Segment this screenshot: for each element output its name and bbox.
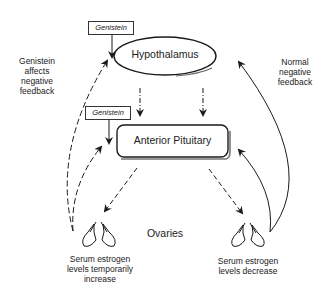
normal-feedback-annotation: Normal negative feedback xyxy=(270,57,320,87)
right-ovaries-icon xyxy=(232,223,265,246)
annotation-line: Normal xyxy=(270,57,320,67)
annotation-line: feedback xyxy=(270,77,320,87)
caption-line: increase xyxy=(62,274,138,284)
pit-to-right-ovary-arrow xyxy=(209,169,242,213)
right-ovary-caption: Serum estrogen levels decrease xyxy=(213,256,283,276)
right-ovary-to-hypothalamus-arrow xyxy=(239,62,289,232)
genistein-box-pituitary: Genistein xyxy=(85,106,131,120)
right-ovary-to-pituitary-arrow xyxy=(239,150,271,232)
left-ovary-to-pituitary-arrow xyxy=(73,147,101,231)
caption-line: Serum estrogen xyxy=(213,256,283,266)
left-ovary-to-hypothalamus-arrow xyxy=(67,61,107,231)
genistein-box-hypothalamus: Genistein xyxy=(88,21,134,35)
hypothalamus-label: Hypothalamus xyxy=(125,48,205,60)
pit-to-left-ovary-arrow xyxy=(105,168,137,211)
annotation-line: Genistein xyxy=(8,56,66,66)
annotation-line: negative xyxy=(8,76,66,86)
anterior-pituitary-label: Anterior Pituitary xyxy=(117,134,228,146)
annotation-line: negative xyxy=(270,67,320,77)
ovaries-label: Ovaries xyxy=(140,227,190,239)
caption-line: levels decrease xyxy=(213,266,283,276)
left-ovary-caption: Serum estrogen levels temporarily increa… xyxy=(62,254,138,284)
caption-line: levels temporarily xyxy=(62,264,138,274)
annotation-line: feedback xyxy=(8,86,66,96)
left-ovaries-icon xyxy=(83,222,116,246)
caption-line: Serum estrogen xyxy=(62,254,138,264)
genistein-feedback-annotation: Genistein affects negative feedback xyxy=(8,56,66,96)
feedback-diagram xyxy=(0,0,330,293)
annotation-line: affects xyxy=(8,66,66,76)
